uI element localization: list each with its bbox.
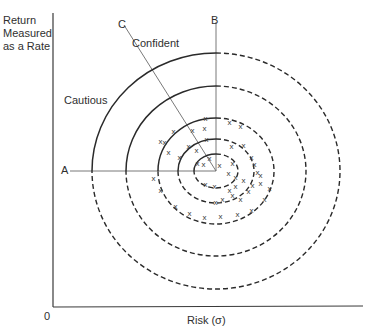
x-marker: x [219,212,223,221]
x-marker: x [178,153,182,162]
x-marker: x [196,159,200,168]
x-marker: x [231,159,235,168]
region-label-cautious: Cautious [64,94,107,107]
x-marker: x [203,124,207,133]
x-marker: x [163,138,167,147]
x-marker: x [213,182,217,191]
x-marker: x [214,198,218,207]
label-a: A [61,164,68,177]
x-marker: x [251,181,255,190]
x-marker: x [230,142,234,151]
x-marker: x [204,180,208,189]
x-marker: x [234,182,238,191]
x-marker: x [218,161,222,170]
x-marker: x [208,154,212,163]
x-marker: x [247,187,251,196]
x-marker: x [205,135,209,144]
x-marker: x [187,142,191,151]
x-marker: x [174,202,178,211]
x-markers: xxxxxxxxxxxxxxxxxxxxxxxxxxxxxxxxxxxxxxxx… [152,114,272,222]
x-marker: x [191,126,195,135]
origin-label: 0 [44,310,50,323]
x-marker: x [263,195,267,204]
x-marker: x [167,148,171,157]
x-marker: x [239,195,243,204]
x-marker: x [202,160,206,169]
x-marker: x [227,169,231,178]
region-label-confident: Confident [132,37,179,50]
x-marker: x [159,186,163,195]
x-marker: x [242,141,246,150]
x-marker: x [228,118,232,127]
x-marker: x [236,210,240,219]
x-axis-label: Risk (σ) [187,314,226,327]
x-marker: x [250,206,254,215]
y-axis-label: Return Measured as a Rate [3,14,63,53]
x-marker: x [259,179,263,188]
x-marker: x [242,176,246,185]
x-marker: x [234,173,238,182]
x-marker: x [239,122,243,131]
label-b: B [211,14,218,27]
x-axis [53,306,363,307]
x-marker: x [159,137,163,146]
x-marker: x [172,127,176,136]
x-marker: x [268,184,272,193]
x-marker: x [231,191,235,200]
x-marker: x [204,114,208,123]
x-marker: x [221,195,225,204]
label-c: C [118,18,126,31]
x-marker: x [188,209,192,218]
x-marker: x [195,146,199,155]
x-marker: x [203,213,207,222]
x-marker: x [152,174,156,183]
